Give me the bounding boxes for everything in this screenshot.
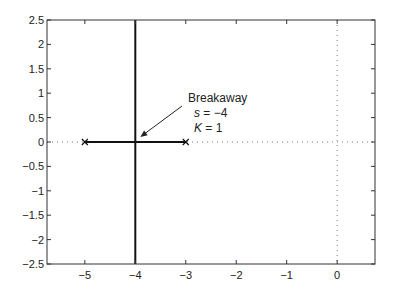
annotation-title: Breakaway (188, 91, 247, 105)
x-tick-label: −1 (280, 269, 293, 281)
x-tick-label: 0 (334, 269, 340, 281)
y-tick-label: 0 (38, 136, 44, 148)
y-tick-label: −2 (31, 234, 44, 246)
y-tick-label: −0.5 (22, 160, 44, 172)
x-tick-label: −5 (79, 269, 92, 281)
y-tick-label: 1 (38, 87, 44, 99)
x-tick-label: −3 (179, 269, 192, 281)
y-tick-label: −2.5 (22, 258, 44, 270)
y-tick-label: 0.5 (29, 112, 44, 124)
y-tick-label: −1 (31, 185, 44, 197)
y-tick-label: 2.5 (29, 14, 44, 26)
y-tick-label: −1.5 (22, 209, 44, 221)
arrow-head-icon (140, 130, 147, 137)
locus-branches (85, 20, 186, 264)
x-axis-ticks: −5−4−3−2−10 (79, 20, 341, 281)
annotation-arrow (144, 106, 182, 134)
annotation-s-value: s = −4 (194, 106, 228, 120)
x-tick-label: −2 (230, 269, 243, 281)
y-tick-label: 1.5 (29, 63, 44, 75)
y-tick-label: 2 (38, 38, 44, 50)
breakaway-annotation: Breakaway s = −4 K = 1 (140, 91, 247, 137)
root-locus-chart: −5−4−3−2−10 2.521.510.50−0.5−1−1.5−2−2.5… (0, 0, 397, 296)
x-tick-label: −4 (129, 269, 142, 281)
annotation-k-value: K = 1 (194, 121, 223, 135)
